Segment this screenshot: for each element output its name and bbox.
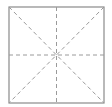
folding-guide-diagram — [0, 0, 112, 107]
